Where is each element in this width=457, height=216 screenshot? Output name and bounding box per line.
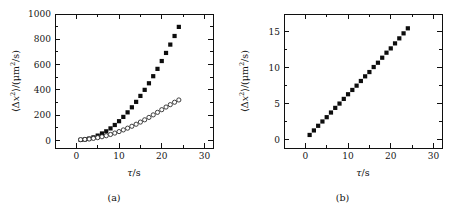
data-point [359, 79, 363, 83]
data-point [312, 128, 316, 132]
data-point [164, 105, 168, 109]
data-point [177, 25, 181, 29]
figure-root: 010203002004006008001000τ/s⟨Δx2⟩/(μm2/s)… [0, 0, 457, 216]
plot-panel-a: 010203002004006008001000τ/s⟨Δx2⟩/(μm2/s)… [0, 0, 228, 216]
data-point [83, 137, 87, 141]
data-point [155, 110, 159, 114]
data-point [168, 103, 172, 107]
plot-b-canvas: 0102030051015τ/s⟨Δx2⟩/(μm2/s) [228, 0, 457, 190]
data-point [168, 42, 172, 46]
data-point [130, 105, 134, 109]
data-point [406, 26, 410, 30]
data-point [376, 61, 380, 65]
y-tick-label: 10 [269, 63, 281, 73]
data-point [125, 110, 129, 114]
data-point [164, 51, 168, 55]
data-point [172, 100, 176, 104]
data-point [108, 132, 112, 136]
x-tick-label: 30 [428, 151, 440, 161]
series-open-circles [79, 98, 181, 142]
data-point [121, 128, 125, 132]
x-tick-label: 10 [342, 151, 354, 161]
data-point [380, 56, 384, 60]
y-axis-label: ⟨Δx2⟩/(μm2/s) [9, 50, 21, 112]
data-point [160, 108, 164, 112]
y-tick-label: 0 [45, 136, 51, 146]
data-point [87, 137, 91, 141]
data-point [367, 70, 371, 74]
data-point [113, 123, 117, 127]
data-point [143, 118, 147, 122]
y-tick-label: 5 [274, 99, 280, 109]
data-point [389, 46, 393, 50]
data-point [316, 124, 320, 128]
y-tick-label: 400 [34, 85, 51, 95]
data-point [138, 120, 142, 124]
data-point [151, 74, 155, 78]
data-point [160, 59, 164, 63]
x-axis-label: τ/s [356, 167, 369, 178]
data-point [79, 138, 83, 142]
data-point [320, 119, 324, 123]
data-point [138, 94, 142, 98]
data-point [104, 134, 108, 138]
panel-b-caption: (b) [228, 192, 457, 203]
plot-frame [284, 14, 442, 148]
data-point [397, 36, 401, 40]
data-point [384, 51, 388, 55]
x-tick-label: 20 [385, 151, 397, 161]
data-point [134, 100, 138, 104]
data-point [172, 34, 176, 38]
x-tick-label: 20 [156, 151, 168, 161]
data-point [100, 135, 104, 139]
y-tick-label: 200 [34, 110, 51, 120]
data-point [325, 115, 329, 119]
data-point [113, 131, 117, 135]
x-tick-label: 30 [199, 151, 211, 161]
data-point [143, 88, 147, 92]
x-tick-label: 0 [73, 151, 79, 161]
x-tick-label: 0 [302, 151, 308, 161]
data-point [96, 136, 100, 140]
x-axis-label: τ/s [127, 167, 140, 178]
y-tick-label: 0 [274, 135, 280, 145]
y-tick-label: 600 [34, 60, 51, 70]
y-tick-label: 15 [269, 27, 281, 37]
data-point [125, 126, 129, 130]
data-point [147, 81, 151, 85]
x-tick-label: 10 [113, 151, 125, 161]
data-point [363, 74, 367, 78]
data-point [329, 110, 333, 114]
y-axis-label: ⟨Δx2⟩/(μm2/s) [238, 50, 250, 112]
data-point [308, 133, 312, 137]
plot-a-canvas: 010203002004006008001000τ/s⟨Δx2⟩/(μm2/s) [0, 0, 228, 190]
data-point [130, 124, 134, 128]
panel-a-caption: (a) [0, 192, 228, 203]
data-point [342, 97, 346, 101]
data-point [372, 65, 376, 69]
data-point [121, 115, 125, 119]
data-point [108, 126, 112, 130]
data-point [155, 67, 159, 71]
data-point [337, 101, 341, 105]
data-point [393, 41, 397, 45]
data-point [117, 119, 121, 123]
series-filled-squares [79, 25, 181, 142]
data-point [401, 31, 405, 35]
data-point [147, 115, 151, 119]
data-point [134, 122, 138, 126]
data-point [151, 113, 155, 117]
data-point [177, 98, 181, 102]
data-point [117, 129, 121, 133]
plot-panel-b: 0102030051015τ/s⟨Δx2⟩/(μm2/s) (b) [228, 0, 457, 216]
data-point [91, 136, 95, 140]
data-point [350, 88, 354, 92]
data-point [354, 84, 358, 88]
data-point [346, 92, 350, 96]
series-filled-squares [308, 26, 410, 137]
data-point [333, 106, 337, 110]
data-point [104, 129, 108, 133]
plot-frame [55, 14, 213, 148]
y-tick-label: 1000 [28, 9, 51, 19]
y-tick-label: 800 [34, 34, 51, 44]
